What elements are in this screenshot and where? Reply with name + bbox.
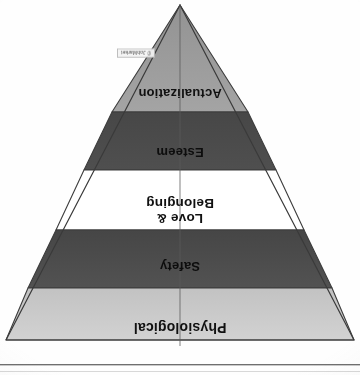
tier-label-safety: Safety: [0, 258, 360, 273]
bottom-horizontal-rule: [0, 364, 360, 366]
tier-label-actualization: Actualization: [0, 85, 360, 100]
watermark-badge: © JobMarket: [117, 48, 155, 58]
tier-label-love-line1: Love &: [0, 211, 360, 226]
tier-label-love-belonging: Love & Belonging: [0, 196, 360, 226]
bottom-horizontal-rule-secondary: [0, 371, 360, 372]
scanned-page: Physiological Safety Love & Belonging Es…: [0, 0, 360, 375]
tier-label-love-line2: Belonging: [0, 196, 360, 211]
maslow-figure: Physiological Safety Love & Belonging Es…: [0, 0, 360, 360]
inverted-pyramid-graphic: [0, 0, 360, 360]
tier-label-physiological: Physiological: [0, 319, 360, 335]
tier-label-esteem: Esteem: [0, 144, 360, 159]
